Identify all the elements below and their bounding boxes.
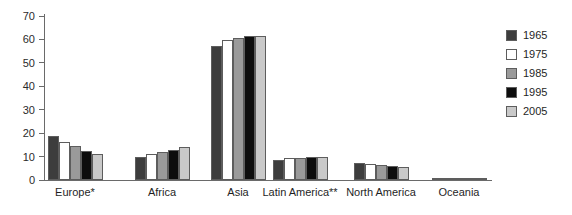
bar	[59, 142, 70, 180]
bar	[387, 166, 398, 180]
bar	[454, 178, 465, 180]
y-tick-label: 40	[23, 78, 35, 94]
bar	[255, 36, 266, 180]
bar	[179, 147, 190, 181]
bar	[398, 167, 409, 180]
legend-item[interactable]: 1985	[506, 65, 547, 81]
bar-group	[273, 16, 328, 180]
plot-area	[44, 16, 492, 180]
chart-legend: 19651975198519952005	[506, 27, 547, 122]
bar-chart: 706050403020100 Europe*AfricaAsiaLatin A…	[0, 0, 572, 215]
y-tick-label: 60	[23, 31, 35, 47]
bar-group	[354, 16, 409, 180]
legend-item-label: 1995	[523, 87, 547, 98]
y-tick-label: 50	[23, 55, 35, 71]
bar	[168, 150, 179, 180]
bar-group	[48, 16, 103, 180]
y-tick-label: 30	[23, 102, 35, 118]
bar	[476, 178, 487, 180]
bar	[92, 154, 103, 180]
bar	[432, 178, 443, 180]
bar	[48, 136, 59, 180]
bar	[146, 154, 157, 180]
bar	[211, 46, 222, 180]
legend-item[interactable]: 2005	[506, 103, 547, 119]
legend-item[interactable]: 1975	[506, 46, 547, 62]
bar	[365, 164, 376, 180]
bar	[157, 152, 168, 180]
bar	[443, 178, 454, 180]
bar	[273, 160, 284, 180]
y-tick-label: 20	[23, 125, 35, 141]
legend-swatch-icon	[506, 87, 517, 98]
legend-swatch-icon	[506, 106, 517, 117]
bar	[244, 36, 255, 180]
legend-item-label: 1965	[523, 30, 547, 41]
bar-group	[432, 16, 487, 180]
bar	[70, 146, 81, 180]
bar-group	[211, 16, 266, 180]
bar	[295, 158, 306, 180]
y-tick-label: 70	[23, 8, 35, 24]
bar	[135, 157, 146, 180]
bar	[465, 178, 476, 180]
legend-item-label: 1975	[523, 49, 547, 60]
bar	[81, 151, 92, 180]
bar	[376, 165, 387, 180]
legend-swatch-icon	[506, 30, 517, 41]
bar	[222, 40, 233, 180]
bar	[317, 157, 328, 180]
legend-item[interactable]: 1995	[506, 84, 547, 100]
x-axis-group-label: Oceania	[389, 186, 529, 198]
legend-item[interactable]: 1965	[506, 27, 547, 43]
legend-item-label: 1985	[523, 68, 547, 79]
x-axis-baseline	[44, 180, 492, 181]
bar-group	[135, 16, 190, 180]
y-tick-label: 10	[23, 149, 35, 165]
legend-item-label: 2005	[523, 106, 547, 117]
bar	[284, 158, 295, 180]
bar	[306, 157, 317, 180]
bar	[233, 38, 244, 180]
legend-swatch-icon	[506, 49, 517, 60]
legend-swatch-icon	[506, 68, 517, 79]
bar	[354, 163, 365, 180]
